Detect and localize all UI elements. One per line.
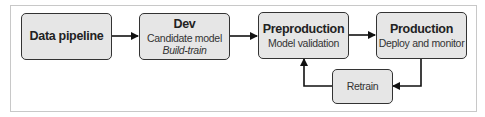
node-title: Preproduction [263,22,345,36]
node-subtitle: Deploy and monitor [379,37,465,49]
node-subtitle: Candidate model [147,32,222,44]
node-dev: Dev Candidate model Build-train [139,13,230,60]
node-data-pipeline: Data pipeline [21,13,112,60]
edge-retrain-to-preproduction [304,59,332,86]
node-subtitle: Model validation [268,37,339,49]
edge-production-to-retrain [393,58,421,86]
node-subtitle: Retrain [347,80,379,92]
node-title: Production [390,22,453,36]
node-title: Dev [173,17,195,31]
node-note: Build-train [163,44,207,56]
node-retrain: Retrain [332,69,393,104]
node-preproduction: Preproduction Model validation [258,12,349,59]
node-production: Production Deploy and monitor [376,12,467,59]
node-title: Data pipeline [30,29,104,43]
